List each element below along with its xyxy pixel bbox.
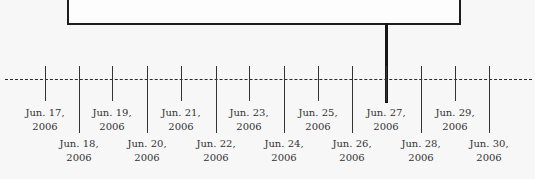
date-label: Jun. 28,2006 (391, 137, 451, 165)
timeline-tick (216, 66, 217, 133)
date-label-day: Jun. 17, (15, 106, 75, 120)
date-label-year: 2006 (288, 120, 348, 134)
timeline-tick (421, 66, 422, 133)
timeline-tick (79, 66, 80, 133)
date-label-day: Jun. 24, (254, 137, 314, 151)
date-label: Jun. 18,2006 (49, 137, 109, 165)
timeline-tick (112, 66, 113, 101)
date-label-day: Jun. 28, (391, 137, 451, 151)
date-label-year: 2006 (49, 151, 109, 165)
date-label: Jun. 24,2006 (254, 137, 314, 165)
date-label-day: Jun. 23, (219, 106, 279, 120)
date-label-year: 2006 (15, 120, 75, 134)
timeline-tick (318, 66, 319, 101)
date-label: Jun. 20,2006 (117, 137, 177, 165)
date-label-year: 2006 (425, 120, 485, 134)
timeline-axis (5, 79, 532, 80)
date-label-year: 2006 (117, 151, 177, 165)
timeline-tick (147, 66, 148, 133)
date-label: Jun. 30,2006 (459, 137, 519, 165)
date-label-year: 2006 (391, 151, 451, 165)
timeline-tick (45, 66, 46, 101)
date-label: Jun. 21,2006 (151, 106, 211, 134)
date-label-day: Jun. 19, (82, 106, 142, 120)
date-label-day: Jun. 21, (151, 106, 211, 120)
date-label: Jun. 23,2006 (219, 106, 279, 134)
date-label-day: Jun. 20, (117, 137, 177, 151)
date-label-year: 2006 (186, 151, 246, 165)
timeline-tick (455, 66, 456, 101)
event-callout-box (67, 0, 461, 25)
date-label-year: 2006 (254, 151, 314, 165)
date-label: Jun. 22,2006 (186, 137, 246, 165)
date-label-day: Jun. 25, (288, 106, 348, 120)
date-label: Jun. 25,2006 (288, 106, 348, 134)
date-label-day: Jun. 30, (459, 137, 519, 151)
date-label-year: 2006 (356, 120, 416, 134)
date-label-year: 2006 (219, 120, 279, 134)
timeline-tick (249, 66, 250, 101)
date-label-year: 2006 (151, 120, 211, 134)
date-label: Jun. 29,2006 (425, 106, 485, 134)
date-label-day: Jun. 26, (322, 137, 382, 151)
timeline-tick (386, 66, 387, 101)
date-label-day: Jun. 27, (356, 106, 416, 120)
timeline-tick (489, 66, 490, 133)
date-label: Jun. 17,2006 (15, 106, 75, 134)
date-label: Jun. 26,2006 (322, 137, 382, 165)
timeline-tick (352, 66, 353, 133)
date-label-day: Jun. 22, (186, 137, 246, 151)
date-label-year: 2006 (82, 120, 142, 134)
date-label-year: 2006 (459, 151, 519, 165)
date-label: Jun. 27,2006 (356, 106, 416, 134)
date-label-day: Jun. 29, (425, 106, 485, 120)
date-label: Jun. 19,2006 (82, 106, 142, 134)
date-label-year: 2006 (322, 151, 382, 165)
timeline-tick (284, 66, 285, 133)
timeline-tick (181, 66, 182, 101)
date-label-day: Jun. 18, (49, 137, 109, 151)
